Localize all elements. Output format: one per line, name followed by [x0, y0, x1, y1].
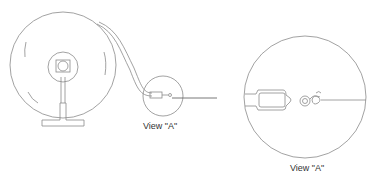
reel-stand — [42, 103, 84, 126]
hose — [97, 22, 172, 98]
view-a-callout-circle — [143, 76, 217, 116]
view-a-callout-label: View "A" — [143, 121, 177, 131]
view-a-detail-circle — [244, 36, 366, 158]
reel-drum — [10, 12, 116, 118]
view-a-detail-label: View "A" — [290, 163, 324, 173]
reel-diagram — [0, 0, 371, 184]
